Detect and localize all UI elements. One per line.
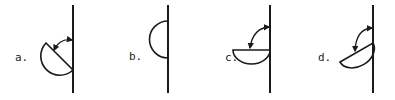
panel-a-rotation-arrow-icon: [54, 40, 72, 50]
panel-b: b.: [129, 5, 168, 93]
panel-b-semicircle-flap: [150, 21, 169, 58]
panel-c-rotation-arrow-icon: [250, 27, 269, 48]
panel-a-semicircle-flap: [41, 43, 73, 75]
diagram-canvas: a. b. c. d.: [0, 0, 395, 100]
panel-a: a.: [15, 5, 73, 93]
panel-c-semicircle-flap: [233, 50, 270, 64]
panel-d-semicircle-flap: [340, 43, 374, 68]
panel-a-label: a.: [15, 51, 28, 64]
panel-c: c.: [225, 5, 270, 93]
panel-d-label: d.: [318, 51, 331, 64]
panel-d: d.: [318, 5, 374, 93]
panel-b-label: b.: [129, 50, 142, 63]
